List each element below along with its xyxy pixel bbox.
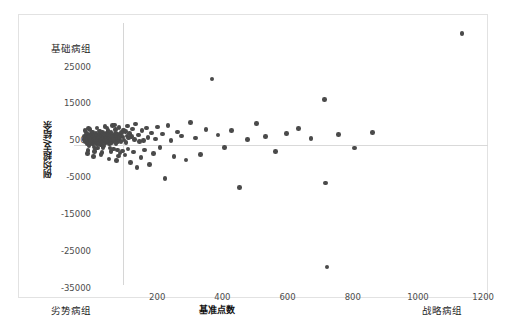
data-point	[96, 141, 101, 146]
data-point	[149, 131, 154, 136]
data-point	[104, 138, 109, 143]
x-axis-tick-label: 200	[149, 292, 165, 302]
y-axis-title: 例均超支/结余	[43, 121, 52, 178]
data-point	[147, 162, 152, 167]
data-point	[153, 137, 158, 142]
data-point	[237, 185, 242, 190]
data-point	[111, 137, 116, 142]
y-axis-tick-label: 15000	[64, 98, 91, 108]
data-point	[93, 147, 98, 152]
y-axis-tick-label: -35000	[61, 283, 91, 293]
data-point	[132, 137, 137, 142]
data-point	[125, 124, 130, 129]
x-axis-tick-label: 600	[279, 292, 295, 302]
y-axis-tick-label: 25000	[64, 62, 91, 72]
data-point	[151, 151, 156, 156]
data-point	[101, 145, 106, 150]
data-point	[460, 31, 465, 36]
horizontal-reference-line	[74, 145, 488, 146]
data-point	[179, 134, 184, 139]
quadrant-label-top-left: 基础病组	[51, 41, 91, 55]
data-point	[128, 160, 133, 165]
y-axis-tick-label: -25000	[61, 246, 91, 256]
data-point	[172, 154, 177, 159]
scatter-chart-screenshot: 25000150005000-5000-15000-25000-35000 20…	[0, 0, 507, 326]
data-point	[133, 122, 138, 127]
data-point	[184, 158, 189, 163]
data-point	[142, 148, 147, 153]
data-point	[309, 136, 314, 141]
data-point	[144, 126, 149, 131]
data-point	[107, 157, 112, 162]
data-point	[139, 155, 144, 160]
x-axis-tick-label: 1000	[407, 292, 429, 302]
y-axis-tick-label: -15000	[61, 209, 91, 219]
data-point	[284, 131, 289, 136]
data-point	[166, 123, 171, 128]
data-point	[102, 132, 107, 137]
data-point	[198, 152, 203, 157]
data-point	[336, 132, 341, 137]
data-point	[160, 132, 165, 137]
data-point	[123, 153, 128, 158]
chart-frame: 25000150005000-5000-15000-25000-35000 20…	[18, 14, 488, 298]
data-point	[229, 128, 234, 133]
x-axis-tick-label: 800	[345, 292, 361, 302]
data-point	[136, 133, 141, 138]
quadrant-label-bottom-right: 战略病组	[422, 303, 462, 317]
plot-area	[74, 23, 488, 285]
data-point	[99, 152, 104, 157]
data-point	[135, 165, 140, 170]
y-axis-tick-label: 5000	[69, 135, 91, 145]
data-point	[296, 126, 301, 131]
x-axis-title-text: 基准点数	[199, 305, 235, 315]
data-point	[216, 133, 221, 138]
data-point	[352, 146, 357, 151]
data-point	[204, 127, 209, 132]
data-point	[245, 137, 250, 142]
data-point	[254, 121, 259, 126]
data-point	[109, 149, 114, 154]
data-point	[322, 97, 327, 102]
data-point	[370, 130, 375, 135]
data-point	[116, 154, 121, 159]
data-point	[163, 176, 168, 181]
data-point	[155, 125, 160, 130]
data-point	[114, 158, 119, 163]
data-point	[273, 149, 278, 154]
x-axis-tick-label: 400	[214, 292, 230, 302]
data-point	[91, 154, 96, 159]
data-point	[193, 136, 198, 141]
data-point	[169, 138, 174, 143]
quadrant-label-bottom-left: 劣势病组	[51, 303, 91, 317]
data-point	[210, 77, 215, 82]
data-point	[146, 135, 151, 140]
y-axis-tick-label: -5000	[66, 172, 91, 182]
data-point	[188, 120, 193, 125]
data-point	[130, 127, 135, 132]
data-point	[112, 123, 117, 128]
data-point	[131, 150, 136, 155]
data-point	[158, 145, 163, 150]
data-point	[126, 147, 131, 152]
data-point	[323, 181, 328, 186]
x-axis-tick-label: 1200	[472, 292, 494, 302]
data-point	[222, 145, 227, 150]
data-point	[141, 138, 146, 143]
data-point	[263, 134, 268, 139]
data-point	[325, 265, 330, 270]
